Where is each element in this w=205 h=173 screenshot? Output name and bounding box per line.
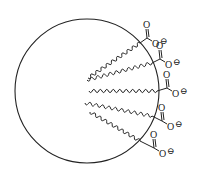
carbonyl-oxygen-label: O: [156, 40, 163, 51]
double-bond: [146, 29, 147, 38]
carbonyl-oxygen-label: O: [150, 129, 157, 140]
micelle-diagram: OO⊖OO⊖OO⊖OO⊖OO⊖: [0, 0, 205, 173]
hydrocarbon-tail: [87, 63, 152, 82]
carbonyl-oxygen-label: O: [143, 19, 150, 30]
surfactant-molecule: OO⊖: [85, 102, 183, 132]
negative-charge-icon: ⊖: [173, 57, 181, 67]
double-bond: [153, 139, 154, 148]
bond-line: [140, 38, 147, 43]
double-bond: [155, 139, 156, 147]
double-bond: [163, 112, 164, 120]
carbonyl-oxygen-label: O: [163, 69, 170, 80]
double-bond: [159, 50, 160, 59]
negative-charge-icon: ⊖: [167, 146, 175, 156]
carbonyl-oxygen-label: O: [158, 102, 165, 113]
hydrocarbon-tail: [88, 42, 140, 78]
carboxylate-oxygen-label: O: [167, 121, 174, 132]
hydrocarbon-tail: [89, 89, 157, 92]
double-bond: [161, 50, 162, 58]
negative-charge-icon: ⊖: [180, 86, 188, 96]
hydrocarbon-tail: [85, 102, 152, 117]
double-bond: [161, 112, 162, 121]
carboxylate-oxygen-label: O: [159, 148, 166, 159]
double-bond: [168, 79, 169, 87]
hydrocarbon-tail: [90, 112, 140, 141]
negative-charge-icon: ⊖: [175, 119, 183, 129]
bond-line: [152, 59, 160, 63]
double-bond: [166, 79, 167, 88]
bond-line: [140, 141, 154, 148]
surfactant-chains: OO⊖OO⊖OO⊖OO⊖OO⊖: [85, 19, 188, 159]
double-bond: [148, 29, 149, 37]
carboxylate-oxygen-label: O: [172, 88, 179, 99]
